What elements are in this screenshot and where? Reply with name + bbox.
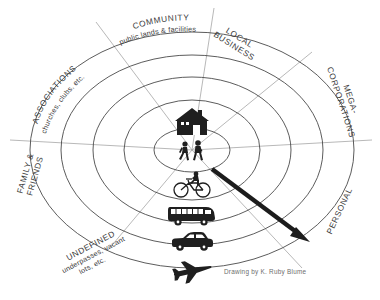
sector-label-local-business: LOCAL BUSINESS: [212, 21, 262, 63]
bicycle-icon: [174, 172, 210, 197]
sector-label-family-friends: FAMILY & FRIENDS: [15, 152, 46, 197]
sector-community-sub: public lands & facilities: [118, 24, 197, 46]
house-icon: [175, 108, 209, 135]
concentric-rings-diagram: COMMUNITY public lands & facilities ASSO…: [0, 0, 380, 300]
sector-label-associations: ASSOCIATIONS churches, clubs, etc.: [30, 56, 106, 140]
spoke-family-assoc: [10, 140, 192, 150]
spoke-group: [10, 8, 372, 268]
sector-label-mega-corporations: MEGA- CORPORATIONS: [325, 62, 367, 138]
airplane-icon: [171, 256, 214, 286]
car-icon: [172, 232, 213, 251]
spoke-mega-personal: [192, 140, 372, 150]
diagram-canvas: COMMUNITY public lands & facilities ASSO…: [0, 0, 380, 300]
sector-label-undefined: UNDEFINED underpasses, vacant lots, etc.: [56, 225, 131, 283]
spoke-local-mega: [192, 52, 312, 150]
credit-text: Drawing by K. Ruby Blume: [224, 268, 306, 275]
sector-personal-main: PERSONAL: [324, 186, 354, 236]
sector-label-personal: PERSONAL: [324, 186, 354, 236]
